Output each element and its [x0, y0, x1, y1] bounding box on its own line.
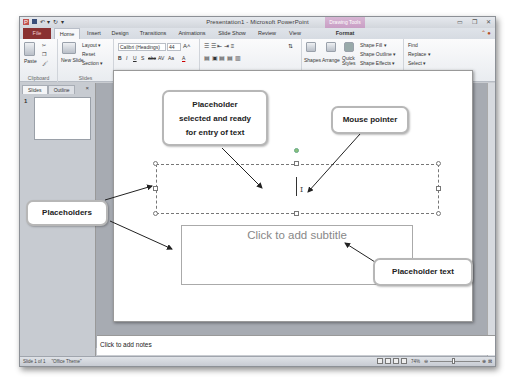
tab-design[interactable]: Design: [108, 28, 132, 39]
char-spacing-button[interactable]: AV: [158, 55, 164, 61]
normal-view-icon[interactable]: [377, 358, 383, 364]
slide-info: Slide 1 of 1: [23, 359, 46, 364]
format-painter-icon[interactable]: 🖌: [42, 60, 48, 66]
fit-to-window-icon[interactable]: ⊠: [488, 359, 492, 364]
reading-view-icon[interactable]: [393, 358, 399, 364]
title-placeholder[interactable]: [156, 164, 439, 214]
shape-effects-button[interactable]: Shape Effects ▾: [360, 60, 395, 66]
drawing-tools-context: Drawing Tools: [325, 17, 365, 28]
paste-icon[interactable]: [24, 42, 35, 56]
close-panel-icon[interactable]: ×: [85, 85, 89, 91]
zoom-level[interactable]: 74%: [411, 359, 420, 364]
tab-home[interactable]: Home: [54, 28, 80, 39]
tab-format[interactable]: Format: [325, 28, 365, 39]
callout-placeholder-selected: Placeholder selected and ready for entry…: [162, 90, 268, 146]
align-icons[interactable]: ▤ ▣ ▤ ▤ ▥: [204, 54, 241, 61]
notes-placeholder: Click to add notes: [100, 341, 152, 348]
tab-insert[interactable]: Insert: [82, 28, 106, 39]
tab-slide-show[interactable]: Slide Show: [214, 28, 250, 39]
rotation-handle[interactable]: [294, 148, 299, 153]
resize-handle[interactable]: [153, 211, 158, 216]
find-button[interactable]: Find: [408, 42, 418, 48]
tab-transitions[interactable]: Transitions: [136, 28, 170, 39]
resize-handle[interactable]: [294, 161, 299, 166]
cut-icon[interactable]: ✂: [42, 42, 46, 48]
arrange-icon[interactable]: [326, 42, 336, 52]
shapes-icon[interactable]: [306, 42, 316, 52]
resize-handle[interactable]: [436, 211, 441, 216]
shapes-button[interactable]: Shapes: [304, 57, 321, 63]
slides-group: New Slide Layout ▾ Reset Section ▾ Slide…: [58, 39, 114, 82]
resize-handle[interactable]: [436, 186, 441, 191]
minimize-icon[interactable]: ▭: [457, 18, 463, 25]
ibeam-pointer-icon: I: [300, 185, 303, 194]
tab-review[interactable]: Review: [254, 28, 280, 39]
font-size-select[interactable]: 44: [167, 43, 181, 51]
strikethrough-button[interactable]: abc: [148, 55, 156, 61]
copy-icon[interactable]: ❐: [42, 51, 46, 57]
callout-line: for entry of text: [164, 126, 266, 140]
vertical-scrollbar[interactable]: [487, 83, 495, 356]
callout-mouse-pointer: Mouse pointer: [331, 106, 409, 134]
resize-handle[interactable]: [153, 186, 158, 191]
zoom-out-icon[interactable]: ⊖: [424, 359, 428, 364]
title-bar: P ↶ ▾ ↻ ▾ Presentation1 - Microsoft Powe…: [20, 17, 495, 28]
slides-label: Slides: [58, 75, 113, 81]
bullets-icon[interactable]: ☰ ☰ ⇤ ⇥ ≡: [204, 42, 234, 49]
font-color-button[interactable]: A: [182, 55, 185, 61]
shape-fill-button[interactable]: Shape Fill ▾: [360, 42, 387, 48]
callout-line: selected and ready: [164, 112, 266, 126]
slide-number: 1: [24, 98, 27, 104]
shadow-button[interactable]: S: [141, 55, 144, 61]
subtitle-placeholder-text: Click to add subtitle: [182, 229, 412, 241]
status-bar: Slide 1 of 1 "Office Theme" 74% ⊖ ⊕ ⊠: [20, 356, 495, 366]
slide-thumbnail[interactable]: [34, 97, 91, 140]
arrange-button[interactable]: Arrange: [322, 57, 340, 63]
callout-placeholders: Placeholders: [26, 200, 108, 226]
text-direction-icon[interactable]: ⇅: [288, 42, 293, 49]
resize-handle[interactable]: [153, 161, 158, 166]
callout-placeholder-text: Placeholder text: [373, 258, 473, 286]
zoom-in-icon[interactable]: ⊕: [482, 359, 486, 364]
close-icon[interactable]: ✕: [486, 18, 491, 25]
resize-handle[interactable]: [436, 161, 441, 166]
select-button[interactable]: Select ▾: [408, 60, 426, 66]
new-slide-icon[interactable]: [62, 42, 76, 54]
grow-font-icon[interactable]: A˄: [183, 43, 191, 49]
quick-styles-icon[interactable]: [344, 42, 354, 52]
tab-view[interactable]: View: [284, 28, 306, 39]
paste-button[interactable]: Paste: [24, 58, 37, 64]
new-slide-button[interactable]: New Slide: [61, 57, 84, 63]
callout-line: Placeholder: [164, 98, 266, 112]
help-icon[interactable]: ⌃ ●: [481, 29, 491, 36]
underline-button[interactable]: U: [133, 55, 137, 61]
font-name-select[interactable]: Calibri (Headings): [118, 43, 166, 51]
resize-handle[interactable]: [294, 211, 299, 216]
tab-outline[interactable]: Outline: [48, 85, 76, 94]
ribbon-tabs: File Home Insert Design Transitions Anim…: [20, 28, 495, 39]
slide-sorter-icon[interactable]: [385, 358, 391, 364]
clipboard-group: Paste ✂ ❐ 🖌 Clipboard: [20, 39, 58, 82]
quick-styles-button[interactable]: Quick Styles: [342, 56, 356, 66]
notes-pane[interactable]: Click to add notes: [97, 335, 495, 355]
slideshow-icon[interactable]: [401, 358, 407, 364]
reset-button[interactable]: Reset: [82, 51, 95, 57]
zoom-slider[interactable]: [430, 361, 480, 362]
replace-button[interactable]: Replace ▾: [408, 51, 431, 57]
window-title: Presentation1 - Microsoft PowerPoint: [20, 19, 495, 25]
restore-icon[interactable]: ❐: [472, 18, 477, 25]
section-button[interactable]: Section ▾: [82, 60, 103, 66]
theme-name: "Office Theme": [52, 359, 82, 364]
tab-file[interactable]: File: [23, 28, 51, 39]
change-case-button[interactable]: Aa: [168, 55, 174, 61]
tab-slides[interactable]: Slides: [22, 85, 48, 94]
italic-button[interactable]: I: [126, 55, 127, 61]
bold-button[interactable]: B: [118, 55, 122, 61]
text-cursor: [296, 177, 297, 196]
tab-animations[interactable]: Animations: [174, 28, 210, 39]
clipboard-label: Clipboard: [20, 75, 57, 81]
shape-outline-button[interactable]: Shape Outline ▾: [360, 51, 396, 57]
layout-button[interactable]: Layout ▾: [82, 42, 101, 48]
